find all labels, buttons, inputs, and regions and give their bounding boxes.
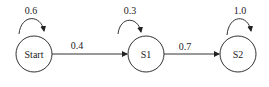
node-label-s2: S2 bbox=[233, 49, 244, 60]
self-loop-s1 bbox=[118, 20, 141, 34]
self-loop-label-s2: 1.0 bbox=[234, 5, 247, 16]
edge-label-start-s1: 0.4 bbox=[71, 40, 84, 51]
node-label-start: Start bbox=[25, 49, 44, 60]
self-loop-s2 bbox=[227, 19, 251, 35]
node-label-s1: S1 bbox=[141, 49, 152, 60]
self-loop-label-start: 0.6 bbox=[25, 5, 38, 16]
self-loop-label-s1: 0.3 bbox=[124, 5, 137, 16]
edge-label-s1-s2: 0.7 bbox=[179, 41, 192, 52]
self-loop-start bbox=[19, 19, 44, 34]
